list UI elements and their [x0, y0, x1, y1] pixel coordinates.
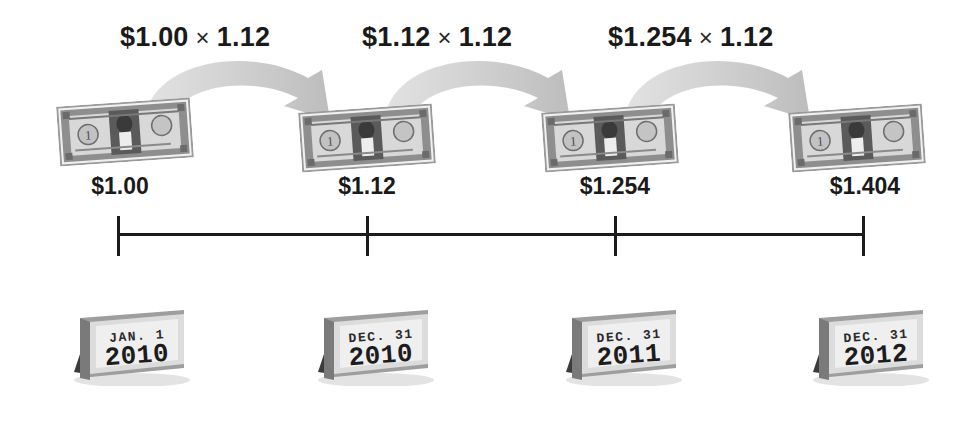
formula-label-2: $1.12×1.12	[362, 22, 512, 53]
calendar-icon-2: DEC. 31 2010	[310, 300, 436, 386]
formula-2-factor: 1.12	[459, 22, 512, 52]
svg-text:1: 1	[816, 133, 824, 148]
formula-label-3: $1.254×1.12	[608, 22, 773, 53]
timeline-tick-2	[366, 216, 369, 256]
calendar-icon-4: DEC. 31 2012	[805, 300, 931, 386]
timeline-tick-1	[117, 216, 120, 256]
formula-label-1: $1.00×1.12	[120, 22, 270, 53]
formula-3-operand: $1.254	[608, 22, 692, 52]
formula-1-factor: 1.12	[217, 22, 270, 52]
value-label-4: $1.404	[803, 173, 927, 200]
timeline-tick-4	[862, 216, 865, 256]
calendar-3-year: 2011	[596, 339, 662, 373]
svg-text:1: 1	[326, 133, 334, 148]
dollar-bill-icon-3: 1	[541, 103, 679, 172]
calendar-4-year: 2012	[843, 339, 909, 373]
formula-2-operand: $1.12	[362, 22, 431, 52]
value-label-1: $1.00	[58, 173, 182, 200]
dollar-bill-icon-2: 1	[298, 103, 436, 172]
value-label-3: $1.254	[553, 173, 677, 200]
timeline-axis	[118, 233, 865, 236]
value-label-2: $1.12	[305, 173, 429, 200]
calendar-icon-3: DEC. 31 2011	[558, 300, 684, 386]
figure-canvas: $1.00×1.12 $1.12×1.12 $1.254×1.12	[0, 0, 979, 430]
calendar-2-year: 2010	[348, 339, 414, 373]
formula-1-operand: $1.00	[120, 22, 189, 52]
multiply-icon: ×	[189, 24, 217, 51]
formula-3-factor: 1.12	[720, 22, 773, 52]
multiply-icon: ×	[431, 24, 459, 51]
dollar-bill-icon-4: 1	[788, 103, 926, 172]
dollar-bill-icon-1: 1	[56, 97, 194, 166]
calendar-1-year: 2010	[104, 339, 170, 373]
svg-text:1: 1	[569, 133, 577, 148]
timeline-tick-3	[614, 216, 617, 256]
svg-text:1: 1	[84, 127, 92, 142]
multiply-icon: ×	[692, 24, 720, 51]
calendar-icon-1: JAN. 1 2010	[66, 300, 192, 386]
